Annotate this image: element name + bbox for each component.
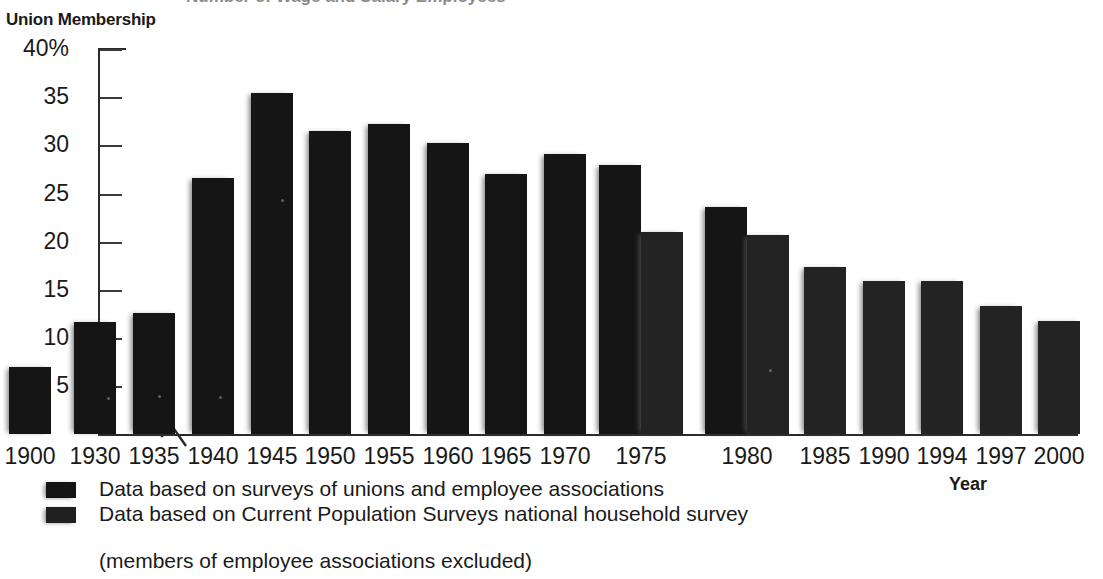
- bar-2000-series-b: [1038, 321, 1080, 434]
- legend-label-series-b: Data based on Current Population Surveys…: [99, 502, 748, 526]
- plot-area: 40%3530252015105: [98, 48, 1078, 436]
- bar-1900-series-a: [9, 367, 51, 434]
- bar-1994-series-b: [921, 281, 963, 434]
- legend-label-series-a: Data based on surveys of unions and empl…: [99, 477, 664, 501]
- legend-swatch-icon-series-a: [46, 482, 76, 498]
- bar-1965-series-a: [485, 174, 527, 434]
- legend-sub-note: (members of employee associations exclud…: [99, 549, 532, 573]
- y-tick-label-15: 15: [5, 278, 69, 301]
- bar-1935-series-a: [133, 313, 175, 434]
- bar-1950-series-a: [309, 131, 351, 434]
- x-tick-label-1945: 1945: [246, 443, 297, 469]
- x-tick-label-1930: 1930: [69, 443, 120, 469]
- print-speck: [107, 397, 110, 400]
- bar-1930-series-a: [74, 322, 116, 434]
- x-tick-label-1975: 1975: [615, 443, 666, 469]
- print-speck: [219, 396, 222, 399]
- x-tick-label-2000: 2000: [1033, 443, 1084, 469]
- print-speck: [281, 199, 284, 202]
- bar-1980-series-a: [705, 207, 747, 434]
- cut-off-header-strip: Number of Wage and Salary Employees: [0, 0, 1103, 12]
- x-tick-label-1935: 1935: [128, 443, 179, 469]
- print-speck: [769, 369, 772, 372]
- x-tick-label-1960: 1960: [422, 443, 473, 469]
- y-tick-label-40: 40%: [5, 37, 69, 60]
- chart-legend: Data based on surveys of unions and empl…: [46, 479, 1086, 527]
- x-tick-label-1950: 1950: [304, 443, 355, 469]
- x-tick-label-1965: 1965: [480, 443, 531, 469]
- y-tick-label-20: 20: [5, 230, 69, 253]
- legend-item-series-b: Data based on Current Population Surveys…: [46, 504, 1086, 527]
- legend-item-series-a: Data based on surveys of unions and empl…: [46, 479, 1086, 502]
- x-tick-label-1955: 1955: [363, 443, 414, 469]
- bar-1955-series-a: [368, 124, 410, 434]
- x-tick-label-1970: 1970: [539, 443, 590, 469]
- bar-1997-series-b: [980, 306, 1022, 434]
- bar-1990-series-b: [863, 281, 905, 434]
- bar-1975-series-b: [641, 232, 683, 434]
- y-axis-title: Union Membership: [6, 10, 156, 30]
- legend-swatch-icon-series-b: [46, 507, 76, 523]
- x-tick-label-1940: 1940: [187, 443, 238, 469]
- cut-off-header-text: Number of Wage and Salary Employees: [186, 0, 506, 7]
- x-tick-label-1900: 1900: [4, 443, 55, 469]
- x-tick-label-1997: 1997: [975, 443, 1026, 469]
- y-tick-label-35: 35: [5, 85, 69, 108]
- y-tick-label-30: 30: [5, 133, 69, 156]
- x-axis-tick-labels: 1900193019351940194519501955196019651970…: [98, 443, 1078, 473]
- x-tick-label-1990: 1990: [858, 443, 909, 469]
- bar-1985-series-b: [804, 267, 846, 434]
- y-tick-label-10: 10: [5, 326, 69, 349]
- x-tick-label-1980: 1980: [721, 443, 772, 469]
- x-axis-baseline: [98, 434, 1078, 436]
- bar-1970-series-a: [544, 154, 586, 434]
- bar-group: [98, 48, 1078, 434]
- y-tick-label-25: 25: [5, 182, 69, 205]
- chart-root: Number of Wage and Salary Employees Unio…: [0, 0, 1103, 579]
- x-tick-label-1985: 1985: [799, 443, 850, 469]
- bar-1975-series-a: [599, 165, 641, 434]
- bar-1960-series-a: [427, 143, 469, 434]
- x-tick-label-1994: 1994: [916, 443, 967, 469]
- bar-1980-series-b: [747, 235, 789, 434]
- bar-1945-series-a: [251, 93, 293, 435]
- bar-1940-series-a: [192, 178, 234, 434]
- print-speck: [158, 395, 161, 398]
